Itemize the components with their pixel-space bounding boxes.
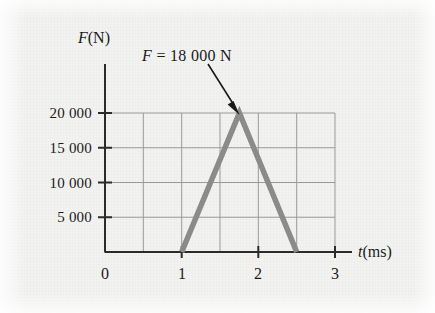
y-tick-label-20000: 20 000 (14, 106, 92, 121)
y-axis-title: F(N) (78, 30, 110, 46)
y-axis-title-unit: (N) (88, 29, 110, 46)
x-axis-title-unit: (ms) (362, 243, 391, 260)
y-tick-label-5000: 5 000 (14, 210, 92, 225)
figure-container: F(N) t(ms) F = 18 000 N 20 000 15 000 10… (0, 0, 435, 313)
y-tick-label-15000: 15 000 (14, 141, 92, 156)
annotation-arrow (208, 64, 240, 115)
peak-force-symbol: F (142, 47, 152, 64)
y-axis-title-symbol: F (78, 29, 88, 46)
x-tick-label-2: 2 (246, 266, 270, 282)
peak-force-annotation-label: F = 18 000 N (142, 48, 232, 64)
x-tick-label-3: 3 (323, 266, 347, 282)
x-tick-label-1: 1 (170, 266, 194, 282)
peak-force-value: = 18 000 N (156, 47, 232, 64)
y-tick-label-10000: 10 000 (14, 176, 92, 191)
x-tick-label-0: 0 (93, 266, 117, 282)
x-axis-title: t(ms) (358, 244, 392, 260)
